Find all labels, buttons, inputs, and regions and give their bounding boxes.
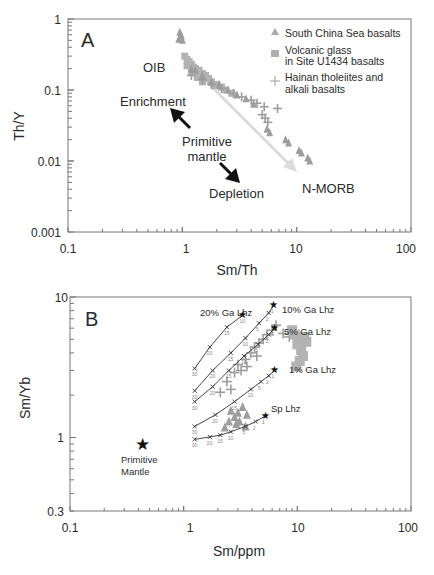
svg-text:10: 10 xyxy=(243,341,249,347)
panel-a-xtick-0.1: 0.1 xyxy=(60,242,77,256)
svg-text:2: 2 xyxy=(266,316,269,322)
panel-a-ytick-0.01: 0.01 xyxy=(38,155,62,169)
svg-text:10: 10 xyxy=(228,435,234,441)
svg-text:5: 5 xyxy=(256,326,259,332)
figure: A 1 0.1 0.01 0.001 0.1 1 10 100 Sm/Th Th… xyxy=(0,0,434,575)
panel-b-xlabel: Sm/ppm xyxy=(213,543,265,559)
svg-text:30: 30 xyxy=(192,394,198,400)
svg-text:5: 5 xyxy=(258,385,261,391)
panel-a-ytick-1: 1 xyxy=(54,13,61,27)
label-ga1: 1% Ga Lhz xyxy=(289,364,336,375)
panel-a-letter: A xyxy=(81,29,95,51)
panel-b-xtick-10: 10 xyxy=(291,521,305,535)
panel-a-xtick-100: 100 xyxy=(396,242,416,256)
panel-b-ytick-10: 10 xyxy=(55,291,69,305)
panel-b: B 10 1 0.3 0.1 1 10 100 Sm/ppm Sm/Yb 302… xyxy=(17,291,418,559)
label-enrichment: Enrichment xyxy=(120,94,186,109)
legend-item-glass-2: in Site U1434 basalts xyxy=(285,55,384,67)
panel-a-ytick-0.001: 0.001 xyxy=(31,226,61,240)
svg-text:20: 20 xyxy=(207,440,213,446)
svg-text:★: ★ xyxy=(270,364,279,375)
svg-text:10: 10 xyxy=(248,392,254,398)
svg-text:★: ★ xyxy=(269,299,278,310)
svg-text:30: 30 xyxy=(192,442,198,448)
label-ga20: 20% Ga Lhz xyxy=(200,307,253,318)
panel-b-letter: B xyxy=(85,308,98,330)
svg-text:10: 10 xyxy=(241,359,247,365)
legend-plus-icon xyxy=(270,76,280,86)
svg-text:5: 5 xyxy=(243,429,246,435)
label-depletion: Depletion xyxy=(209,186,264,201)
legend-triangle-icon xyxy=(271,28,279,35)
svg-text:2: 2 xyxy=(266,338,269,344)
svg-text:20: 20 xyxy=(212,418,218,424)
label-sp: Sp Lhz xyxy=(271,403,301,414)
svg-text:15: 15 xyxy=(217,438,223,444)
legend-square-icon xyxy=(271,50,279,57)
primitive-mantle-star-icon: ★ xyxy=(135,435,150,454)
svg-text:5: 5 xyxy=(255,347,258,353)
panel-b-xtick-0.1: 0.1 xyxy=(62,521,79,535)
panel-b-ytick-1: 1 xyxy=(57,431,64,445)
panel-b-ytick-0.3: 0.3 xyxy=(47,505,64,519)
svg-text:★: ★ xyxy=(270,322,279,333)
panel-a: A 1 0.1 0.01 0.001 0.1 1 10 100 Sm/Th Th… xyxy=(11,13,416,278)
legend-item-scs: South China Sea basalts xyxy=(285,27,401,39)
panel-a-ylabel: Th/Y xyxy=(11,111,27,141)
panel-b-xtick-1: 1 xyxy=(187,521,194,535)
svg-text:30: 30 xyxy=(192,371,198,377)
panel-b-ylabel: Sm/Yb xyxy=(17,377,33,419)
label-nmorb: N-MORB xyxy=(302,181,355,196)
svg-text:★: ★ xyxy=(261,410,270,421)
enrichment-arrow-icon xyxy=(170,108,190,128)
svg-text:20: 20 xyxy=(207,350,213,356)
svg-text:20: 20 xyxy=(210,373,216,379)
svg-text:2: 2 xyxy=(266,379,269,385)
svg-text:15: 15 xyxy=(228,356,234,362)
label-primitive-mantle-1: Primitive xyxy=(121,454,157,465)
svg-text:15: 15 xyxy=(231,405,237,411)
svg-text:30: 30 xyxy=(192,429,198,435)
label-oib: OIB xyxy=(143,60,165,75)
panel-a-ytick-0.1: 0.1 xyxy=(44,84,61,98)
legend: South China Sea basalts Volcanic glass i… xyxy=(270,27,401,95)
legend-item-hainan-1: Hainan tholeiites and xyxy=(285,71,383,83)
panel-a-xtick-10: 10 xyxy=(289,242,303,256)
svg-text:15: 15 xyxy=(224,330,230,336)
panel-a-xtick-1: 1 xyxy=(183,242,190,256)
label-ga5: 5% Ga Lhz xyxy=(284,326,331,337)
panel-b-ticks xyxy=(70,297,411,511)
svg-text:15: 15 xyxy=(226,373,232,379)
label-mantle: mantle xyxy=(187,149,226,164)
panel-b-xtick-100: 100 xyxy=(398,521,418,535)
panel-a-xlabel: Sm/Th xyxy=(216,262,257,278)
svg-text:20: 20 xyxy=(210,390,216,396)
label-primitive-mantle-2: Mantle xyxy=(121,466,150,477)
panel-b-frame xyxy=(70,297,411,511)
label-ga10: 10% Ga Lhz xyxy=(282,304,335,315)
svg-text:30: 30 xyxy=(192,405,198,411)
label-primitive: Primitive xyxy=(182,134,232,149)
svg-text:2: 2 xyxy=(253,425,256,431)
depletion-arrow-icon xyxy=(220,163,240,183)
legend-item-hainan-2: alkali basalts xyxy=(285,83,345,95)
